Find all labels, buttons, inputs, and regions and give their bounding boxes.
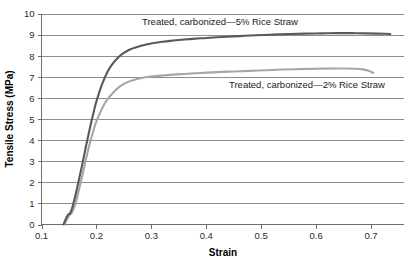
series-annotation-2-percent: Treated, carbonized—2% Rice Straw: [229, 79, 385, 90]
y-axis-title: Tensile Stress (MPa): [4, 70, 15, 167]
chart-svg: 0.10.20.30.40.50.60.7 012345678910 Strai…: [0, 0, 416, 266]
y-tick-labels-group: 012345678910: [24, 8, 35, 230]
tensile-stress-strain-chart: 0.10.20.30.40.50.60.7 012345678910 Strai…: [0, 0, 416, 266]
x-tick-label-0.2: 0.2: [90, 230, 103, 241]
y-tick-label-8: 8: [29, 51, 34, 62]
x-tick-label-0.1: 0.1: [35, 230, 48, 241]
x-tick-label-0.6: 0.6: [310, 230, 323, 241]
series-line-5-percent: [63, 33, 390, 224]
gridlines-group: [42, 15, 405, 204]
y-tick-label-0: 0: [29, 219, 34, 230]
y-tick-label-1: 1: [29, 198, 34, 209]
y-tick-label-5: 5: [29, 114, 34, 125]
y-tick-label-3: 3: [29, 156, 34, 167]
series-line-2-percent: [65, 68, 374, 224]
x-axis-title: Strain: [209, 247, 237, 258]
y-tick-label-9: 9: [29, 29, 34, 40]
y-tick-label-2: 2: [29, 177, 34, 188]
y-tick-label-6: 6: [29, 93, 34, 104]
y-tick-label-4: 4: [29, 135, 34, 146]
y-tick-label-10: 10: [24, 8, 35, 19]
y-tick-label-7: 7: [29, 72, 34, 83]
x-tick-label-0.4: 0.4: [200, 230, 213, 241]
x-tick-label-0.3: 0.3: [145, 230, 158, 241]
x-tick-label-0.7: 0.7: [364, 230, 377, 241]
x-tick-label-0.5: 0.5: [255, 230, 268, 241]
x-tick-labels-group: 0.10.20.30.40.50.60.7: [35, 230, 378, 241]
x-tick-marks-group: [43, 225, 372, 229]
series-annotation-5-percent: Treated, carbonized—5% Rice Straw: [142, 16, 298, 27]
series-paths-group: [63, 33, 390, 224]
y-tick-marks-group: [38, 15, 42, 226]
